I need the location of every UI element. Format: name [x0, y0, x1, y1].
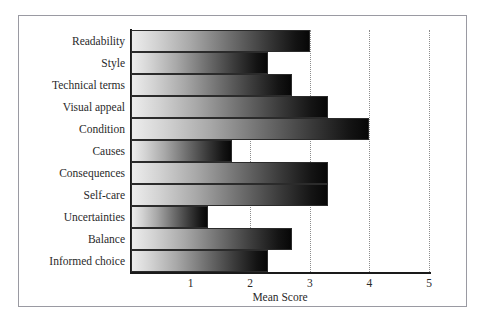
bar	[131, 118, 369, 140]
x-tick-label: 1	[179, 277, 203, 289]
bar	[131, 96, 328, 118]
bar-row	[131, 228, 429, 250]
x-axis-title: Mean Score	[131, 291, 429, 303]
caption-remnant	[70, 0, 190, 6]
category-label: Style	[101, 57, 125, 69]
category-label: Uncertainties	[64, 211, 125, 223]
bar	[131, 30, 310, 52]
x-tick-label: 3	[298, 277, 322, 289]
category-label: Readability	[72, 35, 125, 47]
category-label: Balance	[88, 233, 125, 245]
gridline-5	[429, 30, 430, 272]
bar	[131, 162, 328, 184]
bar	[131, 206, 208, 228]
x-tick-label: 5	[417, 277, 441, 289]
bar	[131, 228, 292, 250]
bar-row	[131, 30, 429, 52]
bar-row	[131, 206, 429, 228]
plot-area	[131, 30, 429, 272]
bar-row	[131, 118, 429, 140]
category-label: Condition	[79, 123, 125, 135]
category-label: Causes	[92, 145, 125, 157]
category-label: Self-care	[84, 189, 126, 201]
bar	[131, 140, 232, 162]
bar	[131, 52, 268, 74]
category-label: Consequences	[59, 167, 125, 179]
category-label: Visual appeal	[63, 101, 125, 113]
bar-row	[131, 74, 429, 96]
bar-row	[131, 96, 429, 118]
bar-row	[131, 162, 429, 184]
bar	[131, 74, 292, 96]
x-tick-label: 4	[357, 277, 381, 289]
x-tick-label: 2	[238, 277, 262, 289]
bar-row	[131, 184, 429, 206]
figure-frame: ReadabilityStyleTechnical termsVisual ap…	[18, 15, 467, 307]
category-axis-labels: ReadabilityStyleTechnical termsVisual ap…	[24, 30, 125, 272]
bar-row	[131, 52, 429, 74]
bar	[131, 184, 328, 206]
category-label: Informed choice	[49, 255, 125, 267]
bar-row	[131, 140, 429, 162]
x-axis-line	[130, 272, 431, 274]
category-label: Technical terms	[52, 79, 125, 91]
bar	[131, 250, 268, 272]
bar-row	[131, 250, 429, 272]
